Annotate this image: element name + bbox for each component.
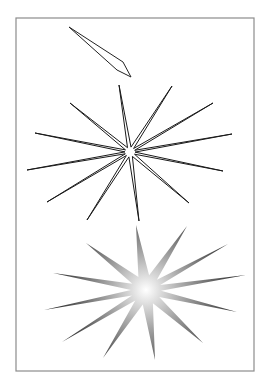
drawing-canvas [0, 0, 267, 384]
quill-shape[interactable] [69, 27, 131, 77]
outline-star-shape[interactable] [27, 85, 232, 221]
gradient-star-shape[interactable] [44, 225, 246, 360]
